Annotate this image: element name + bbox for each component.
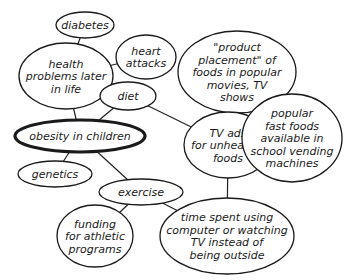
node-label: programs (68, 243, 122, 256)
node-label: foods in popular (192, 66, 283, 79)
node-label: exercise (118, 186, 164, 199)
node-label: movies, TV (207, 79, 269, 92)
node-label: diabetes (61, 19, 109, 32)
node-label: health (49, 58, 84, 71)
node-label: TV instead of (191, 236, 266, 249)
node-label: school vending (250, 145, 333, 158)
node-label: genetics (32, 168, 79, 181)
node-label: foods (213, 152, 243, 165)
node-label: heart (131, 45, 161, 58)
node-exercise: exercise (99, 179, 183, 205)
node-diet: diet (100, 82, 156, 110)
node-health-problems: healthproblems laterin life (19, 43, 113, 109)
node-label: time spent using (181, 211, 273, 224)
node-label: machines (265, 157, 318, 170)
node-genetics: genetics (18, 161, 92, 187)
node-label: available in (260, 132, 323, 145)
node-heart-attacks: heartattacks (116, 35, 176, 79)
node-label: obesity in children (29, 130, 131, 143)
node-time-spent: time spent usingcomputer or watchingTV i… (160, 198, 294, 274)
node-label: fast foods (265, 120, 319, 133)
node-funding: fundingfor athleticprograms (57, 205, 133, 267)
nodes-layer: diabetesheartattackshealthproblems later… (15, 12, 342, 274)
node-label: computer or watching (166, 224, 287, 237)
node-label: placement" of (197, 54, 278, 67)
node-label: TV ads (209, 127, 246, 140)
node-label: funding (74, 218, 116, 231)
node-label: attacks (126, 57, 167, 70)
node-label: for athletic (65, 230, 125, 243)
concept-map: diabetesheartattackshealthproblems later… (0, 0, 346, 280)
node-label: being outside (190, 249, 265, 262)
node-diabetes: diabetes (56, 12, 114, 38)
node-label: shows (220, 91, 254, 104)
node-label: in life (51, 83, 82, 96)
node-obesity-in-children: obesity in children (15, 120, 145, 152)
node-label: diet (117, 90, 139, 103)
node-label: "product (213, 41, 261, 54)
node-fast-foods: popularfast foodsavailable inschool vend… (242, 94, 342, 182)
node-label: problems later (25, 70, 108, 83)
node-label: popular (270, 107, 314, 120)
